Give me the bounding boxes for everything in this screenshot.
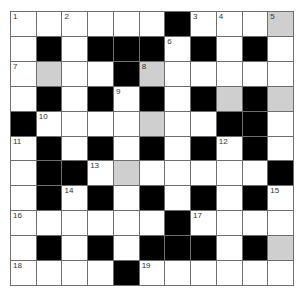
shaded-cell[interactable]: 8 bbox=[140, 62, 165, 86]
answer-cell[interactable] bbox=[37, 12, 62, 36]
shaded-cell[interactable] bbox=[217, 87, 242, 111]
clue-number: 7 bbox=[13, 63, 17, 71]
answer-cell[interactable]: 2 bbox=[62, 12, 87, 36]
answer-cell[interactable] bbox=[268, 37, 293, 61]
answer-cell[interactable]: 7 bbox=[11, 62, 36, 86]
answer-cell[interactable] bbox=[217, 37, 242, 61]
answer-cell[interactable] bbox=[243, 161, 268, 185]
black-square bbox=[11, 112, 36, 136]
shaded-cell[interactable] bbox=[268, 87, 293, 111]
answer-cell[interactable]: 18 bbox=[11, 261, 36, 285]
answer-cell[interactable]: 13 bbox=[88, 161, 113, 185]
answer-cell[interactable] bbox=[217, 161, 242, 185]
answer-cell[interactable] bbox=[217, 261, 242, 285]
answer-cell[interactable] bbox=[88, 261, 113, 285]
answer-cell[interactable] bbox=[243, 12, 268, 36]
answer-cell[interactable] bbox=[88, 211, 113, 235]
answer-cell[interactable] bbox=[140, 161, 165, 185]
answer-cell[interactable]: 19 bbox=[140, 261, 165, 285]
answer-cell[interactable] bbox=[191, 261, 216, 285]
answer-cell[interactable] bbox=[114, 12, 139, 36]
answer-cell[interactable]: 6 bbox=[165, 37, 190, 61]
answer-cell[interactable]: 3 bbox=[191, 12, 216, 36]
answer-cell[interactable] bbox=[62, 137, 87, 161]
answer-cell[interactable]: 9 bbox=[114, 87, 139, 111]
answer-cell[interactable] bbox=[268, 112, 293, 136]
answer-cell[interactable] bbox=[268, 261, 293, 285]
answer-cell[interactable] bbox=[191, 62, 216, 86]
answer-cell[interactable] bbox=[114, 236, 139, 260]
answer-cell[interactable] bbox=[243, 62, 268, 86]
clue-number: 10 bbox=[39, 113, 48, 121]
answer-cell[interactable]: 12 bbox=[217, 137, 242, 161]
answer-cell[interactable]: 14 bbox=[62, 186, 87, 210]
shaded-cell[interactable] bbox=[114, 161, 139, 185]
answer-cell[interactable] bbox=[140, 211, 165, 235]
shaded-cell[interactable] bbox=[268, 236, 293, 260]
answer-cell[interactable] bbox=[37, 211, 62, 235]
shaded-cell[interactable]: 5 bbox=[268, 12, 293, 36]
answer-cell[interactable] bbox=[11, 37, 36, 61]
answer-cell[interactable] bbox=[165, 186, 190, 210]
answer-cell[interactable] bbox=[37, 261, 62, 285]
answer-cell[interactable]: 15 bbox=[268, 186, 293, 210]
answer-cell[interactable] bbox=[217, 211, 242, 235]
answer-cell[interactable] bbox=[114, 186, 139, 210]
answer-cell[interactable] bbox=[243, 211, 268, 235]
answer-cell[interactable] bbox=[217, 236, 242, 260]
answer-cell[interactable] bbox=[165, 261, 190, 285]
answer-cell[interactable] bbox=[62, 62, 87, 86]
answer-cell[interactable] bbox=[217, 186, 242, 210]
shaded-cell[interactable] bbox=[37, 62, 62, 86]
answer-cell[interactable] bbox=[62, 112, 87, 136]
black-square bbox=[37, 37, 62, 61]
black-square bbox=[37, 186, 62, 210]
answer-cell[interactable] bbox=[62, 87, 87, 111]
black-square bbox=[140, 236, 165, 260]
answer-cell[interactable] bbox=[165, 62, 190, 86]
black-square bbox=[243, 236, 268, 260]
answer-cell[interactable]: 10 bbox=[37, 112, 62, 136]
answer-cell[interactable] bbox=[268, 137, 293, 161]
answer-cell[interactable] bbox=[62, 261, 87, 285]
answer-cell[interactable] bbox=[268, 62, 293, 86]
answer-cell[interactable] bbox=[11, 236, 36, 260]
answer-cell[interactable] bbox=[114, 211, 139, 235]
answer-cell[interactable] bbox=[88, 112, 113, 136]
answer-cell[interactable] bbox=[88, 62, 113, 86]
answer-cell[interactable] bbox=[191, 161, 216, 185]
answer-cell[interactable] bbox=[11, 161, 36, 185]
clue-number: 3 bbox=[193, 13, 197, 21]
answer-cell[interactable] bbox=[88, 12, 113, 36]
answer-cell[interactable] bbox=[165, 161, 190, 185]
answer-cell[interactable] bbox=[114, 137, 139, 161]
answer-cell[interactable] bbox=[165, 87, 190, 111]
answer-cell[interactable] bbox=[62, 236, 87, 260]
black-square bbox=[243, 87, 268, 111]
answer-cell[interactable] bbox=[11, 186, 36, 210]
answer-cell[interactable] bbox=[191, 112, 216, 136]
crossword-grid: 12345678910111213141516171819 bbox=[10, 11, 294, 286]
shaded-cell[interactable] bbox=[140, 112, 165, 136]
answer-cell[interactable]: 11 bbox=[11, 137, 36, 161]
answer-cell[interactable] bbox=[114, 112, 139, 136]
answer-cell[interactable] bbox=[268, 211, 293, 235]
answer-cell[interactable] bbox=[217, 62, 242, 86]
answer-cell[interactable] bbox=[243, 261, 268, 285]
answer-cell[interactable] bbox=[11, 87, 36, 111]
black-square bbox=[62, 161, 87, 185]
answer-cell[interactable] bbox=[165, 112, 190, 136]
clue-number: 4 bbox=[219, 13, 223, 21]
answer-cell[interactable] bbox=[140, 12, 165, 36]
answer-cell[interactable] bbox=[62, 37, 87, 61]
answer-cell[interactable]: 1 bbox=[11, 12, 36, 36]
answer-cell[interactable] bbox=[165, 137, 190, 161]
answer-cell[interactable]: 17 bbox=[191, 211, 216, 235]
black-square bbox=[191, 137, 216, 161]
black-square bbox=[243, 137, 268, 161]
answer-cell[interactable]: 16 bbox=[11, 211, 36, 235]
clue-number: 17 bbox=[193, 212, 202, 220]
clue-number: 6 bbox=[167, 38, 171, 46]
answer-cell[interactable]: 4 bbox=[217, 12, 242, 36]
answer-cell[interactable] bbox=[62, 211, 87, 235]
